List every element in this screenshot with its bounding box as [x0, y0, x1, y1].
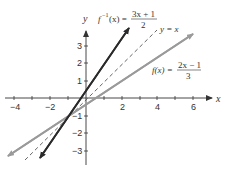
svg-text:−1: −1	[102, 12, 108, 18]
x-tick-label: 2	[120, 102, 125, 112]
label-f-inverse: f −1 (x) = 3x + 1 2	[98, 9, 157, 30]
x-tick-label: 6	[191, 102, 196, 112]
x-axis: −4 −2 2 4 6 x	[5, 93, 221, 112]
y-tick-label: −2	[72, 128, 82, 138]
svg-text:(x) =: (x) =	[109, 14, 127, 24]
line-f-end	[8, 34, 193, 156]
graph-canvas: −4 −2 2 4 6 x 3 2 1 −1 −2 −3 y f −1	[0, 0, 230, 175]
y-tick-label: 3	[77, 41, 82, 51]
line-f-inverse-end	[40, 28, 129, 158]
svg-text:2: 2	[141, 20, 146, 30]
line-identity	[25, 30, 157, 160]
y-axis-label: y	[82, 13, 88, 24]
y-tick-label: 1	[77, 76, 82, 86]
svg-text:2x − 1: 2x − 1	[178, 60, 201, 70]
label-f: f(x) = 2x − 1 3	[152, 60, 201, 81]
x-axis-label: x	[215, 93, 221, 104]
svg-text:3x + 1: 3x + 1	[132, 9, 155, 19]
svg-text:3: 3	[186, 71, 191, 81]
y-tick-label: −3	[72, 146, 82, 156]
label-identity: y = x	[159, 24, 179, 34]
x-tick-label: −4	[10, 102, 20, 112]
x-tick-label: 4	[155, 102, 160, 112]
svg-text:f(x) =: f(x) =	[152, 65, 173, 75]
y-axis: 3 2 1 −1 −2 −3 y	[72, 13, 88, 165]
x-tick-label: −2	[45, 102, 55, 112]
y-tick-label: 2	[77, 58, 82, 68]
